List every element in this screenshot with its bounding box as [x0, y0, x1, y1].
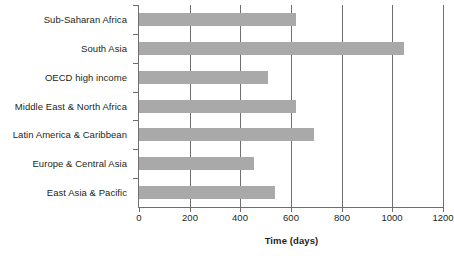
bar[interactable]: [139, 157, 254, 170]
bar-row: [139, 92, 443, 121]
bar-row: [139, 34, 443, 63]
category-label: East Asia & Pacific: [0, 178, 133, 207]
x-axis-tick-label: 1200: [432, 212, 453, 224]
x-axis-tick-label: 1000: [381, 212, 402, 224]
category-label: OECD high income: [0, 63, 133, 92]
bar[interactable]: [139, 128, 314, 141]
x-axis-tick-label: 800: [334, 212, 350, 224]
bar-row: [139, 149, 443, 178]
bar-row: [139, 5, 443, 34]
bar-row: [139, 178, 443, 207]
x-axis-title: Time (days): [139, 235, 444, 246]
bar[interactable]: [139, 100, 296, 113]
x-axis-tick-label: 400: [232, 212, 248, 224]
x-axis-tick-label: 200: [182, 212, 198, 224]
bar[interactable]: [139, 186, 275, 199]
category-label: South Asia: [0, 34, 133, 63]
x-axis-tick-label: 600: [283, 212, 299, 224]
category-label: Europe & Central Asia: [0, 149, 133, 178]
x-axis-tick-label: 0: [136, 212, 141, 224]
bar[interactable]: [139, 42, 404, 55]
category-label: Middle East & North Africa: [0, 92, 133, 121]
bar[interactable]: [139, 13, 296, 26]
bars-layer: [139, 5, 443, 207]
bar-row: [139, 63, 443, 92]
category-label: Latin America & Caribbean: [0, 120, 133, 149]
x-axis-tick-labels: 020040060080010001200: [139, 212, 444, 226]
category-axis: Sub-Saharan Africa South Asia OECD high …: [0, 5, 133, 207]
bar-row: [139, 120, 443, 149]
gridline: [443, 5, 444, 207]
plot-area: [139, 5, 443, 207]
bar[interactable]: [139, 71, 268, 84]
category-label: Sub-Saharan Africa: [0, 5, 133, 34]
